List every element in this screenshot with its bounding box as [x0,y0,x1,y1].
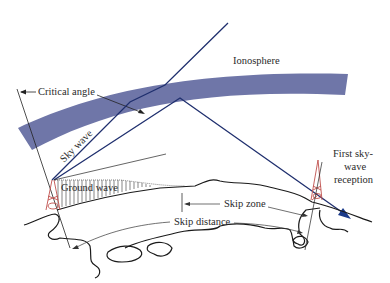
label-first-reception-2: wave [344,161,366,172]
arrow-icon [302,213,308,217]
island-2 [147,242,172,256]
skip-zone-arrow-right [268,207,306,216]
label-critical-angle: Critical angle [38,86,95,97]
arrow-icon [20,90,26,95]
arrow-icon [297,230,303,234]
arrow-icon [184,202,190,206]
label-ionosphere: Ionosphere [233,55,280,66]
label-skip-distance: Skip distance [174,216,231,227]
label-first-reception-1: First sky- [333,148,373,159]
receiver-reference-line [305,162,322,250]
label-first-reception-3: reception [334,174,374,185]
arrow-icon [72,245,79,249]
label-ground-wave: Ground wave [61,182,118,193]
arrow-icon [138,109,145,114]
island-1 [107,246,142,262]
label-skip-zone: Skip zone [224,198,266,209]
skywave-diagram: Ionosphere Critical angle Sky wave Groun… [0,0,390,283]
